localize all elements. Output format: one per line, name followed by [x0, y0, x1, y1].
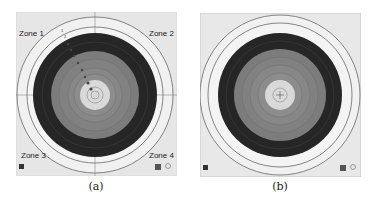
archery-target-a: 1 2 Zone 1 Zone 2 Zone 3 Zone 4: [16, 12, 177, 176]
logo-icon: [203, 165, 208, 170]
barcode-icon: [155, 164, 161, 170]
caption-b: (b): [260, 180, 300, 193]
archery-target-b: [200, 13, 361, 177]
target-panel-a: 1 2 Zone 1 Zone 2 Zone 3 Zone 4: [16, 12, 177, 176]
zone-1-label: Zone 1: [19, 29, 44, 38]
zone-3-label: Zone 3: [21, 151, 46, 160]
logo-icon: [19, 164, 24, 169]
target-panel-b: [200, 13, 361, 177]
caption-a: (a): [76, 180, 116, 193]
zone-4-label: Zone 4: [149, 151, 174, 160]
barcode-icon: [340, 165, 346, 171]
zone-2-label: Zone 2: [149, 29, 174, 38]
